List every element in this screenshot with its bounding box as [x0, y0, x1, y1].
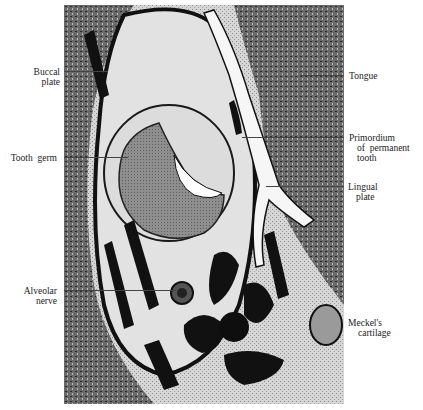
- label-primordium: Primordium of permanent tooth: [349, 133, 410, 163]
- label-primordium-line3: tooth: [349, 153, 410, 163]
- leader-line-buccal-plate: [64, 71, 108, 72]
- label-buccal-plate: Buccal plate: [34, 67, 60, 87]
- leader-line-alveolar-nerve: [64, 290, 176, 291]
- label-lingual-plate-line1: Lingual: [348, 182, 378, 192]
- label-tooth-germ: Tooth germ: [11, 153, 57, 163]
- label-lingual-plate-line2: plate: [348, 192, 378, 202]
- label-meckels-cartilage-line1: Meckel's: [348, 318, 391, 328]
- label-tongue-line1: Tongue: [349, 71, 377, 81]
- leader-line-tooth-germ: [64, 157, 128, 158]
- label-primordium-line1: Primordium: [349, 133, 410, 143]
- label-tooth-germ-line1: Tooth germ: [11, 153, 57, 163]
- micrograph-image: [64, 5, 344, 404]
- label-alveolar-nerve: Alveolar nerve: [24, 286, 57, 306]
- label-buccal-plate-line1: Buccal: [34, 67, 60, 77]
- leader-line-tongue: [300, 75, 344, 76]
- label-alveolar-nerve-line1: Alveolar: [24, 286, 57, 296]
- leader-line-lingual-plate: [266, 186, 344, 187]
- label-alveolar-nerve-line2: nerve: [24, 296, 57, 306]
- tissue-section-drawing: [64, 5, 344, 404]
- label-buccal-plate-line2: plate: [34, 77, 60, 87]
- label-meckels-cartilage: Meckel's cartilage: [348, 318, 391, 338]
- label-tongue: Tongue: [349, 71, 377, 81]
- label-primordium-line2: of permanent: [349, 143, 410, 153]
- label-lingual-plate: Lingual plate: [348, 182, 378, 202]
- leader-line-primordium: [242, 137, 344, 138]
- label-meckels-cartilage-line2: cartilage: [348, 328, 391, 338]
